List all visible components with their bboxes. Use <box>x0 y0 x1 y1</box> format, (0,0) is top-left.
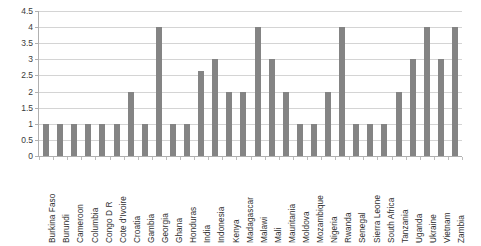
bar-slot <box>434 11 448 156</box>
x-axis-tick <box>208 157 209 160</box>
x-axis-category-label: Cameroon <box>77 204 85 243</box>
bar <box>226 92 232 156</box>
bar-slot <box>222 11 236 156</box>
x-axis-tick <box>265 157 266 160</box>
bar <box>339 27 345 156</box>
bar <box>410 59 416 156</box>
x-axis-category-label: Tanzania <box>402 209 410 243</box>
x-axis-tick <box>39 157 40 160</box>
x-axis-tick <box>363 157 364 160</box>
bar <box>85 124 91 156</box>
x-axis-category-label: Vietnam <box>444 212 452 243</box>
y-axis-tick-label: 1.5 <box>21 103 33 112</box>
bar-slot <box>335 11 349 156</box>
x-axis-tick <box>180 157 181 160</box>
x-axis-category-label: Uganda <box>416 214 424 243</box>
bar <box>396 92 402 156</box>
x-axis-category-label: Madagascar <box>247 197 255 243</box>
bar-slot <box>67 11 81 156</box>
y-axis-tick-label: 3 <box>28 55 33 64</box>
bar-slot <box>251 11 265 156</box>
x-axis-tick <box>222 157 223 160</box>
y-axis-tick-label: 0 <box>28 152 33 161</box>
y-axis-tick-label: 4 <box>28 23 33 32</box>
x-axis-tick <box>335 157 336 160</box>
y-axis-tick-label: 3.5 <box>21 39 33 48</box>
bar <box>184 124 190 156</box>
bar-slot <box>377 11 391 156</box>
x-axis-category-label: Sierra Leone <box>374 195 382 243</box>
x-axis-category-label: Honduras <box>190 207 198 243</box>
bar <box>381 124 387 156</box>
bar <box>71 124 77 156</box>
bar <box>424 27 430 156</box>
bar <box>114 124 120 156</box>
y-axis-tick-label: 2 <box>28 87 33 96</box>
x-axis-tick <box>462 157 463 160</box>
bar-slot <box>265 11 279 156</box>
bar <box>255 27 261 156</box>
x-axis-category-label: Ghana <box>176 218 184 243</box>
y-axis-tick-label: 2.5 <box>21 71 33 80</box>
bar <box>240 92 246 156</box>
x-axis-category-label: South Africa <box>388 198 396 243</box>
y-axis-tick <box>35 92 38 93</box>
y-axis-tick-label: 1 <box>28 120 33 129</box>
x-axis-category-label: Columbia <box>92 208 100 243</box>
y-axis-tick <box>35 75 38 76</box>
bar-slot <box>363 11 377 156</box>
bar <box>283 92 289 156</box>
x-axis-category-label: Gambia <box>148 214 156 243</box>
x-axis-tick <box>95 157 96 160</box>
x-axis-category-label: Georgia <box>162 213 170 243</box>
x-axis-category-label: Ukraine <box>430 214 438 243</box>
bar-slot <box>138 11 152 156</box>
x-axis-tick <box>349 157 350 160</box>
x-axis-tick <box>406 157 407 160</box>
y-axis-tick <box>35 43 38 44</box>
bars-container <box>39 11 462 156</box>
bar-slot <box>53 11 67 156</box>
bar-slot <box>279 11 293 156</box>
x-axis-category-label: Zambia <box>458 215 466 243</box>
bar <box>452 27 458 156</box>
x-axis-tick <box>448 157 449 160</box>
bar <box>57 124 63 156</box>
x-axis-tick <box>236 157 237 160</box>
bar <box>269 59 275 156</box>
y-axis-tick <box>35 108 38 109</box>
y-axis-tick <box>35 11 38 12</box>
x-axis-category-label: Nigeria <box>331 216 339 243</box>
bar-slot <box>307 11 321 156</box>
x-axis-tick <box>194 157 195 160</box>
bar-slot <box>321 11 335 156</box>
bar <box>142 124 148 156</box>
y-axis-tick <box>35 156 38 157</box>
bar <box>353 124 359 156</box>
bar-slot <box>152 11 166 156</box>
bar <box>198 71 204 156</box>
x-axis-category-label: Croatia <box>134 216 142 243</box>
bar <box>325 92 331 156</box>
x-axis-category-label: Cote d'Ivoire <box>120 196 128 243</box>
x-axis-tick <box>166 157 167 160</box>
x-axis-category-label: Malawi <box>261 217 269 243</box>
bar-slot <box>180 11 194 156</box>
bar-slot <box>349 11 363 156</box>
bar-slot <box>110 11 124 156</box>
bar-slot <box>392 11 406 156</box>
bar-chart: 4.543.532.521.510.50 Burkina FasoBurundi… <box>0 0 481 246</box>
x-axis-tick <box>321 157 322 160</box>
x-axis-tick <box>392 157 393 160</box>
x-axis-tick <box>434 157 435 160</box>
bar <box>367 124 373 156</box>
bar-slot <box>293 11 307 156</box>
bar-slot <box>420 11 434 156</box>
x-axis-labels: Burkina FasoBurundiCameroonColumbiaCongo… <box>39 161 462 246</box>
bar <box>297 124 303 156</box>
y-axis-tick <box>35 27 38 28</box>
bar-slot <box>124 11 138 156</box>
x-axis-tick <box>138 157 139 160</box>
x-axis-category-label: Indonesia <box>218 207 226 243</box>
bar-slot <box>194 11 208 156</box>
